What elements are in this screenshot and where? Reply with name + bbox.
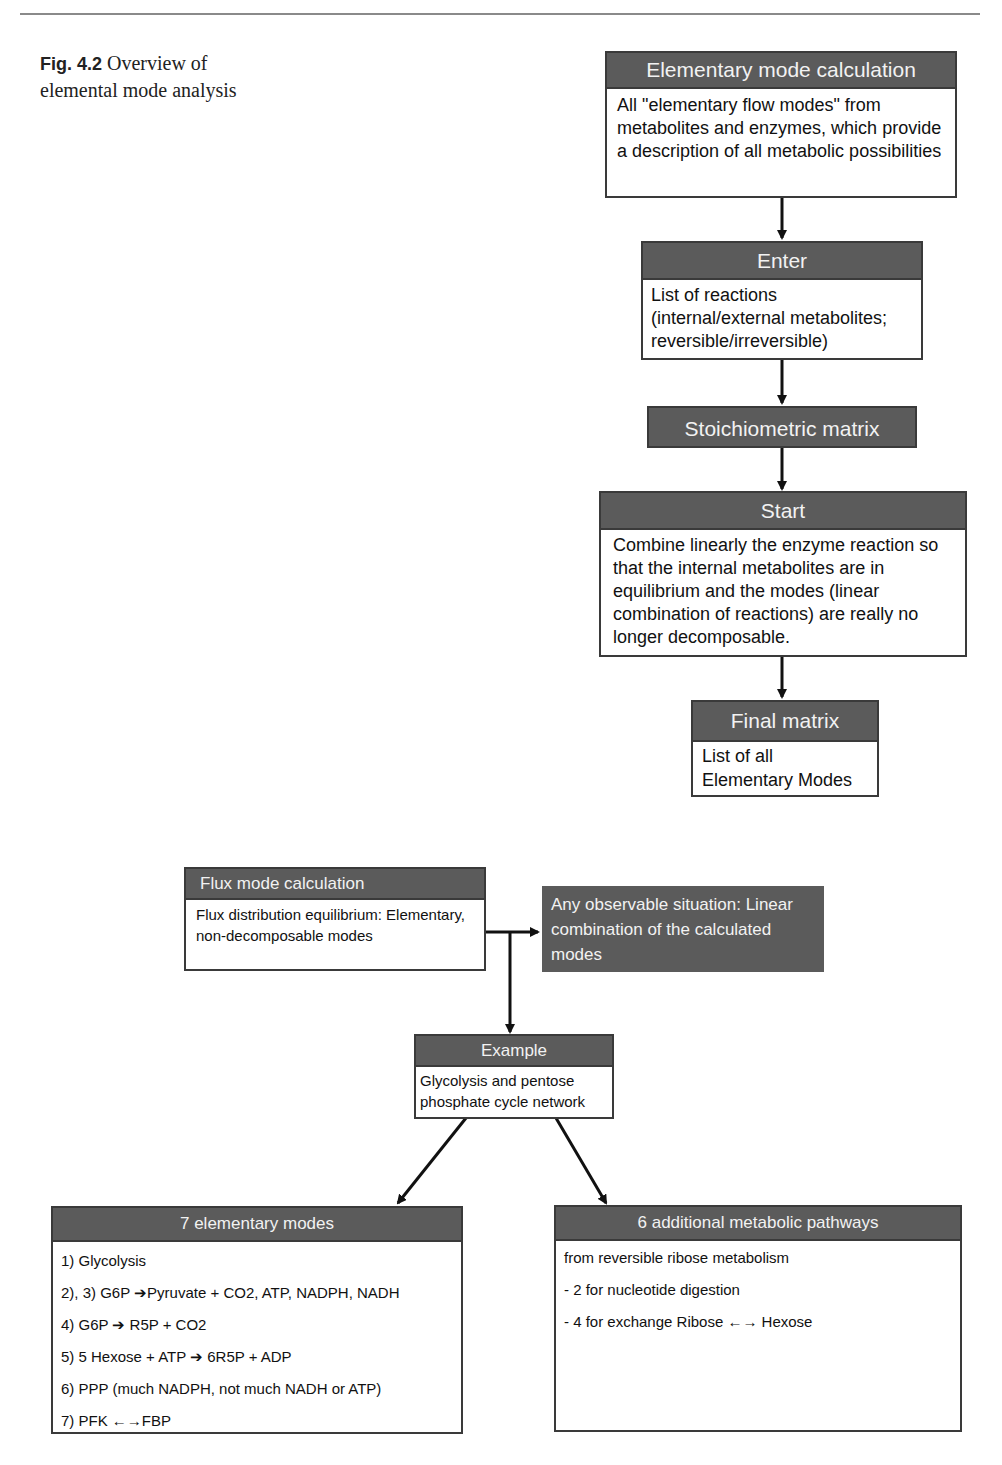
final-matrix-text: List of all Elementary Modes (693, 742, 877, 794)
start-text: Combine linearly the enzyme reaction so … (601, 530, 965, 653)
additional-pathway-item: - 4 for exchange Ribose ←→ Hexose (564, 1306, 952, 1338)
elementary-mode-calculation-title: Elementary mode calculation (607, 53, 955, 89)
additional-pathways-list: from reversible ribose metabolism - 2 fo… (556, 1241, 960, 1339)
elementary-mode-item: 6) PPP (much NADPH, not much NADH or ATP… (61, 1373, 453, 1405)
observable-situation-text: Any observable situation: Linear combina… (551, 895, 793, 964)
final-matrix-box: Final matrix List of all Elementary Mode… (691, 700, 879, 797)
flux-mode-calculation-text: Flux distribution equilibrium: Elementar… (186, 900, 484, 950)
flux-mode-calculation-box: Flux mode calculation Flux distribution … (184, 867, 486, 971)
elementary-modes-list: 1) Glycolysis 2), 3) G6P ➔Pyruvate + CO2… (53, 1242, 461, 1440)
stoichiometric-matrix-box: Stoichiometric matrix (647, 406, 917, 448)
example-title: Example (416, 1036, 612, 1067)
example-text: Glycolysis and pentose phosphate cycle n… (416, 1067, 612, 1115)
elementary-mode-calculation-box: Elementary mode calculation All "element… (605, 51, 957, 198)
additional-pathways-box: 6 additional metabolic pathways from rev… (554, 1205, 962, 1432)
enter-text: List of reactions (internal/external met… (643, 280, 921, 357)
additional-pathway-item: - 2 for nucleotide digestion (564, 1274, 952, 1306)
example-box: Example Glycolysis and pentose phosphate… (414, 1034, 614, 1119)
elementary-mode-item: 4) G6P ➔ R5P + CO2 (61, 1309, 453, 1341)
final-matrix-title: Final matrix (693, 702, 877, 742)
elementary-mode-item: 5) 5 Hexose + ATP ➔ 6R5P + ADP (61, 1341, 453, 1373)
flux-mode-calculation-title: Flux mode calculation (186, 869, 484, 900)
additional-pathways-title: 6 additional metabolic pathways (556, 1207, 960, 1241)
additional-pathway-item: from reversible ribose metabolism (564, 1242, 952, 1274)
elementary-mode-item: 1) Glycolysis (61, 1245, 453, 1277)
enter-box: Enter List of reactions (internal/extern… (641, 241, 923, 360)
start-box: Start Combine linearly the enzyme reacti… (599, 491, 967, 657)
observable-situation-box: Any observable situation: Linear combina… (542, 886, 824, 972)
stoichiometric-matrix-title: Stoichiometric matrix (685, 417, 880, 440)
elementary-modes-box: 7 elementary modes 1) Glycolysis 2), 3) … (51, 1206, 463, 1434)
elementary-modes-title: 7 elementary modes (53, 1208, 461, 1242)
enter-title: Enter (643, 243, 921, 280)
elementary-mode-item: 2), 3) G6P ➔Pyruvate + CO2, ATP, NADPH, … (61, 1277, 453, 1309)
elementary-mode-calculation-text: All "elementary flow modes" from metabol… (607, 89, 955, 168)
start-title: Start (601, 493, 965, 530)
elementary-mode-item: 7) PFK ←→FBP (61, 1405, 453, 1437)
